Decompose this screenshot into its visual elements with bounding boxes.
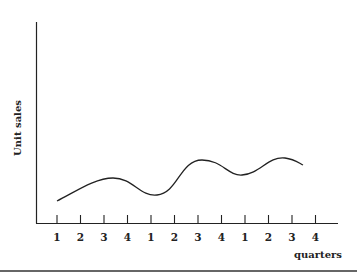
sales-curve xyxy=(57,158,303,201)
x-ticks xyxy=(57,215,316,224)
x-tick-label: 1 xyxy=(241,231,248,243)
x-tick-label: 2 xyxy=(265,231,272,243)
x-axis-label: quarters xyxy=(294,249,342,260)
x-tick-label: 3 xyxy=(288,231,295,243)
x-tick-label: 4 xyxy=(218,231,225,243)
x-tick-labels: 123412341234 xyxy=(53,231,319,243)
x-tick-label: 4 xyxy=(124,231,131,243)
x-tick-label: 2 xyxy=(77,231,84,243)
chart: 123412341234 Unit sales quarters xyxy=(0,0,357,277)
x-tick-label: 3 xyxy=(100,231,107,243)
x-tick-label: 3 xyxy=(194,231,201,243)
x-tick-label: 1 xyxy=(147,231,154,243)
y-axis-label: Unit sales xyxy=(12,100,23,156)
x-tick-label: 4 xyxy=(312,231,319,243)
x-tick-label: 1 xyxy=(53,231,60,243)
x-tick-label: 2 xyxy=(171,231,178,243)
